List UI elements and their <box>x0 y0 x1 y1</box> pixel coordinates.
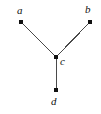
vertex-dot-d[interactable] <box>54 88 58 92</box>
edge-b-c <box>56 22 90 57</box>
vertex-label-a: a <box>17 5 23 16</box>
graph-figure: a b c d <box>0 0 101 114</box>
edge-a-c <box>21 22 56 57</box>
vertex-label-b: b <box>85 4 91 15</box>
vertex-dot-c[interactable] <box>54 55 58 59</box>
vertex-label-c: c <box>60 56 65 67</box>
vertex-dot-a[interactable] <box>19 20 23 24</box>
vertex-label-d: d <box>51 96 57 107</box>
vertex-dot-b[interactable] <box>88 20 92 24</box>
